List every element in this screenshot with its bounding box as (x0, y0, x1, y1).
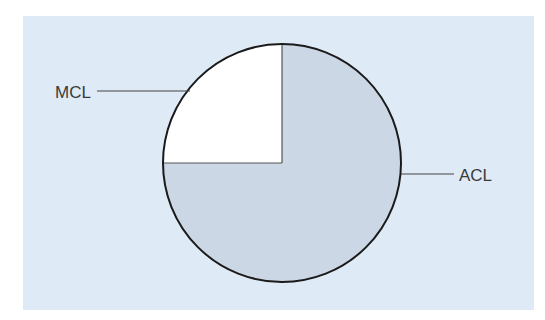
acl-label: ACL (459, 166, 492, 185)
pie-slice-mcl (163, 44, 282, 163)
pie-chart: MCL ACL (0, 0, 545, 320)
mcl-label: MCL (55, 83, 91, 102)
chart-page: MCL ACL (0, 0, 545, 320)
